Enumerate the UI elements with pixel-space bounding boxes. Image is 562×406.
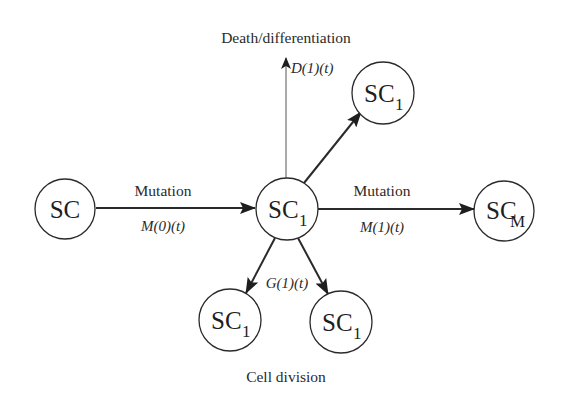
mutation-rate-m1: M(1)(t)	[359, 219, 404, 236]
node-sc1-bottom-left: SC 1	[199, 289, 261, 351]
node-sc1-center: SC 1	[256, 178, 318, 240]
node-sc: SC	[35, 179, 95, 239]
stem-cell-transition-diagram: Death/differentiation D(1)(t) Mutation M…	[0, 0, 562, 406]
node-sc1-bottom-right-sub: 1	[353, 324, 362, 343]
node-scm-sub: M	[510, 212, 525, 231]
mutation-label-right: Mutation	[354, 182, 411, 199]
node-sc1-bottom-left-sub: 1	[242, 322, 251, 341]
node-scm: SC M	[474, 181, 534, 241]
division-rate-g1: G(1)(t)	[266, 275, 308, 292]
death-rate-label: D(1)(t)	[290, 60, 333, 77]
node-sc1-center-label: SC	[268, 196, 299, 223]
node-sc1-bottom-left-label: SC	[211, 307, 242, 334]
self-renewal-arrow	[304, 112, 361, 183]
death-differentiation-caption: Death/differentiation	[221, 29, 351, 46]
node-sc1-bottom-right-label: SC	[322, 309, 353, 336]
cell-division-caption: Cell division	[246, 368, 326, 385]
node-sc1-center-sub: 1	[299, 211, 308, 230]
mutation-label-left: Mutation	[135, 182, 192, 199]
node-sc1-top-right-label: SC	[364, 80, 395, 107]
node-sc1-bottom-right: SC 1	[310, 291, 372, 353]
mutation-rate-m0: M(0)(t)	[140, 218, 185, 235]
node-sc1-top-right-sub: 1	[395, 95, 404, 114]
node-sc1-top-right: SC 1	[352, 62, 414, 124]
node-sc-label: SC	[50, 196, 81, 223]
